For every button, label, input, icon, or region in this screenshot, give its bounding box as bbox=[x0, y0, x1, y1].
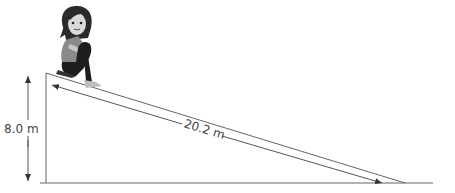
inclined-plane-diagram: 20.2 m 8.0 m bbox=[0, 0, 455, 193]
girl-figure bbox=[56, 6, 102, 88]
slope-dimension-arrow-end bbox=[222, 136, 382, 183]
slope-dimension-arrow-start bbox=[52, 85, 182, 124]
height-label: 8.0 m bbox=[4, 122, 39, 136]
slope-length-label: 20.2 m bbox=[182, 116, 226, 142]
